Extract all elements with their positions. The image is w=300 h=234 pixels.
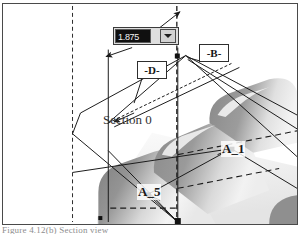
top-face-edge-b <box>73 113 81 134</box>
vertex-base-left <box>98 216 102 220</box>
datum-label-d[interactable]: -D- <box>137 61 167 79</box>
combobox-dropdown-button[interactable] <box>160 29 176 43</box>
shaded-solid-model <box>97 78 297 224</box>
point-label-a1[interactable]: A_1 <box>221 141 245 157</box>
cad-viewport-frame[interactable]: 1.875 -B- -D- Section 0 A_1 A_5 <box>2 3 298 225</box>
figure-caption-strip: Figure 4.12(b) Section view <box>2 226 298 234</box>
vertex-top <box>175 54 180 59</box>
dimension-value-combobox[interactable]: 1.875 <box>113 27 179 45</box>
datum-label-b[interactable]: -B- <box>199 44 229 62</box>
dimension-value-input[interactable]: 1.875 <box>115 29 151 43</box>
chevron-down-icon <box>164 34 172 38</box>
section-label[interactable]: Section 0 <box>103 112 152 128</box>
vertex-origin <box>175 218 181 224</box>
point-label-a5[interactable]: A_5 <box>137 184 161 200</box>
screenshot-root: 1.875 -B- -D- Section 0 A_1 A_5 Figure 4… <box>0 0 300 234</box>
leader-combo-to-left <box>106 48 132 57</box>
figure-caption: Figure 4.12(b) Section view <box>2 226 298 234</box>
